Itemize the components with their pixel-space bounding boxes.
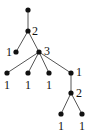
label-node-1a: 1 — [6, 46, 12, 58]
nodes — [4, 7, 84, 116]
node-3 — [36, 49, 41, 54]
label-node-2b: 2 — [76, 87, 82, 99]
node-1b — [68, 70, 73, 75]
edge-2-leaf4 — [61, 93, 71, 114]
node-2b — [68, 90, 73, 95]
label-leaf1: 1 — [4, 79, 10, 91]
node-leaf4 — [58, 111, 63, 116]
label-leaf4: 1 — [58, 120, 64, 132]
node-root — [25, 7, 30, 12]
node-leaf1 — [4, 70, 9, 75]
label-node-1b: 1 — [76, 66, 82, 78]
label-node-3: 3 — [44, 45, 50, 57]
node-leaf2 — [25, 70, 30, 75]
label-leaf2: 1 — [25, 79, 31, 91]
label-leaf5: 1 — [79, 120, 85, 132]
label-leaf3: 1 — [46, 79, 52, 91]
label-node-2a: 2 — [32, 25, 38, 37]
node-leaf3 — [46, 70, 51, 75]
node-leaf5 — [79, 111, 84, 116]
node-2a — [25, 28, 30, 33]
edge-2-1 — [16, 31, 28, 52]
node-1a — [13, 49, 18, 54]
edges — [7, 10, 82, 114]
